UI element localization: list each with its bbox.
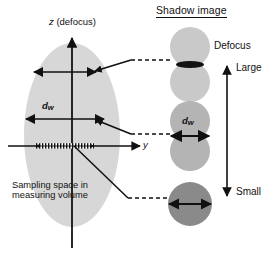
y-axis-label: y [143,140,148,151]
figure-root: Shadow image z (defocus) y dw dw Samplin… [0,0,277,260]
sampling-space-caption: Sampling space in measuring volume [12,180,88,201]
defocus-scale-title: Defocus [214,40,251,51]
sampling-space-caption-line2: measuring volume [12,190,88,200]
shadow-large-defocus [170,27,210,102]
shadow-image-title: Shadow image [156,5,227,18]
sampling-space-caption-line1: Sampling space in [12,180,88,190]
z-axis-label-text: (defocus) [54,16,96,27]
width-arrow-bottom [36,143,94,148]
dw-label-left: dw [42,101,54,112]
connector-top [95,60,170,71]
shadow-small-defocus [168,182,212,226]
dw-label-right-subscript: w [188,118,194,127]
dw-label-right: dw [182,116,194,127]
defocus-scale-small-label: Small [236,186,261,197]
dw-label-left-symbol: d [42,100,48,111]
shadow-medium-defocus [170,101,210,171]
z-axis-label: z (defocus) [49,17,96,28]
dw-label-left-subscript: w [48,103,54,112]
dw-label-right-symbol: d [182,115,188,126]
shadow-large-lens-marker [176,61,204,68]
diagram-canvas [0,0,277,260]
defocus-scale-large-label: Large [236,62,262,73]
